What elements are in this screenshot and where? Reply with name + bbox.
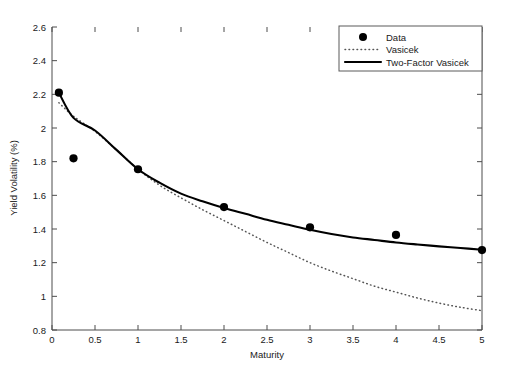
x-tick-label: 5 bbox=[479, 334, 484, 345]
x-tick-label: 0.5 bbox=[88, 334, 101, 345]
x-tick-label: 2 bbox=[221, 334, 226, 345]
y-tick-label: 2.6 bbox=[33, 22, 46, 33]
chart-legend[interactable]: DataVasicekTwo-Factor Vasicek bbox=[339, 26, 482, 71]
data-point-marker bbox=[392, 231, 400, 239]
x-tick-label: 1 bbox=[135, 334, 140, 345]
y-tick-label: 2 bbox=[41, 123, 46, 134]
data-point-marker bbox=[55, 89, 63, 97]
yield-volatility-chart: 00.511.522.533.544.550.811.21.41.61.822.… bbox=[0, 0, 511, 368]
data-point-marker bbox=[478, 246, 486, 254]
chart-figure: 00.511.522.533.544.550.811.21.41.61.822.… bbox=[0, 0, 511, 368]
x-tick-label: 0 bbox=[49, 334, 54, 345]
x-tick-label: 2.5 bbox=[260, 334, 273, 345]
data-point-marker bbox=[134, 165, 142, 173]
y-tick-label: 1.4 bbox=[33, 224, 46, 235]
legend-entry-label: Vasicek bbox=[386, 44, 419, 55]
y-tick-label: 2.2 bbox=[33, 89, 46, 100]
y-axis-title: Yield Volatility (%) bbox=[8, 140, 19, 216]
data-point-marker bbox=[69, 154, 77, 162]
y-tick-label: 1.2 bbox=[33, 257, 46, 268]
legend-entry-label: Two-Factor Vasicek bbox=[386, 57, 469, 68]
x-tick-label: 4.5 bbox=[432, 334, 445, 345]
y-tick-label: 2.4 bbox=[33, 55, 46, 66]
data-point-marker bbox=[220, 203, 228, 211]
x-tick-label: 3 bbox=[307, 334, 312, 345]
x-tick-label: 4 bbox=[393, 334, 398, 345]
x-axis-title: Maturity bbox=[250, 349, 284, 360]
y-tick-label: 1.8 bbox=[33, 156, 46, 167]
legend-marker-data bbox=[359, 33, 367, 41]
y-tick-label: 1 bbox=[41, 291, 46, 302]
legend-entry-label: Data bbox=[386, 32, 407, 43]
x-tick-label: 1.5 bbox=[174, 334, 187, 345]
y-tick-label: 0.8 bbox=[33, 325, 46, 336]
x-tick-label: 3.5 bbox=[346, 334, 359, 345]
y-tick-label: 1.6 bbox=[33, 190, 46, 201]
data-point-marker bbox=[306, 223, 314, 231]
